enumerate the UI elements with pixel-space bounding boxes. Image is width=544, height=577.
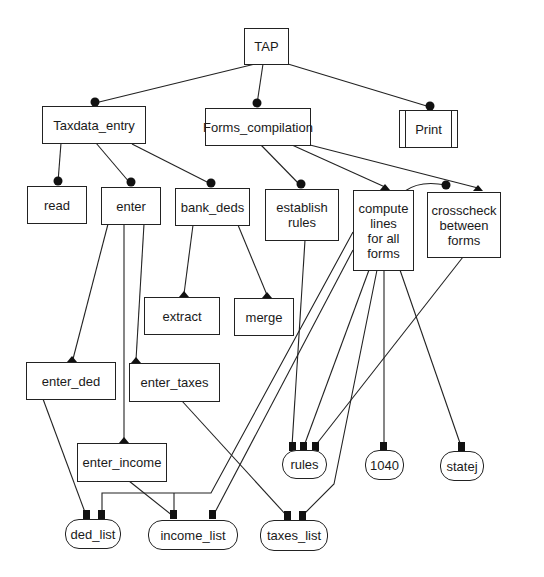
store-taxes-list: taxes_list xyxy=(260,520,328,551)
store-1040: 1040 xyxy=(365,450,404,480)
module-enter: enter xyxy=(101,187,161,225)
module-print: Print xyxy=(399,110,458,148)
data-flag-icon xyxy=(83,510,90,519)
module-enter-ded: enter_ded xyxy=(26,362,116,400)
structure-chart: TAP Taxdata_entry Forms_compilation Prin… xyxy=(0,0,544,577)
module-forms-compilation: Forms_compilation xyxy=(205,108,311,146)
module-merge: merge xyxy=(234,298,294,336)
data-flag-icon xyxy=(209,510,216,519)
module-extract: extract xyxy=(144,297,220,335)
store-ded-list: ded_list xyxy=(65,519,121,549)
module-enter-taxes: enter_taxes xyxy=(129,363,220,402)
store-rules: rules xyxy=(282,450,327,479)
store-income-list: income_list xyxy=(148,520,238,550)
connector-markers xyxy=(0,0,544,577)
data-flag-icon xyxy=(284,511,291,520)
store-statej: statej xyxy=(440,451,484,481)
module-enter-income: enter_income xyxy=(77,443,167,482)
data-flag-icon xyxy=(299,511,306,520)
module-taxdata-entry: Taxdata_entry xyxy=(42,106,146,144)
data-flag-icon xyxy=(170,510,177,519)
data-flag-icon xyxy=(98,510,105,519)
module-bank-deds: bank_deds xyxy=(175,188,250,226)
module-compute-lines: compute lines for all forms xyxy=(353,190,414,271)
module-establish-rules: establish rules xyxy=(265,189,339,241)
module-crosscheck: crosscheck between forms xyxy=(427,192,501,258)
module-read: read xyxy=(27,186,87,224)
data-flag-icon xyxy=(458,442,465,451)
module-tap: TAP xyxy=(244,28,289,65)
